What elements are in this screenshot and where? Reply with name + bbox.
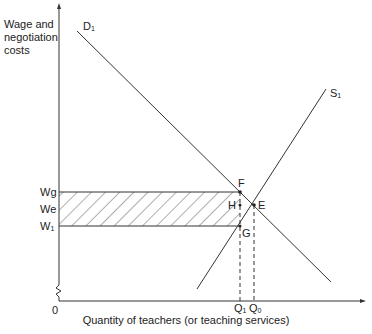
w1-label: W1 <box>40 220 54 235</box>
point-h <box>239 204 242 207</box>
point-f <box>238 190 242 194</box>
point-g-label: G <box>242 227 251 240</box>
axis-break-icon <box>56 285 61 301</box>
x-axis-arrow-icon <box>360 299 366 303</box>
we-label: We <box>40 203 56 216</box>
y-axis-arrow-icon <box>57 3 61 9</box>
origin-label: 0 <box>52 304 58 317</box>
y-axis-label: Wage and negotiation costs <box>4 18 60 57</box>
q1-label: Q1 <box>234 302 246 317</box>
hatched-area <box>59 192 240 226</box>
point-e <box>252 203 256 207</box>
demand-curve <box>77 31 331 282</box>
demand-label: D1 <box>83 20 95 35</box>
point-h-label: H <box>228 199 236 212</box>
point-e-label: E <box>258 199 265 212</box>
wg-label: Wg <box>40 186 57 199</box>
supply-label: S1 <box>330 87 341 102</box>
supply-curve <box>197 89 326 289</box>
q0-label: Q0 <box>249 302 261 317</box>
point-f-label: F <box>238 177 245 190</box>
